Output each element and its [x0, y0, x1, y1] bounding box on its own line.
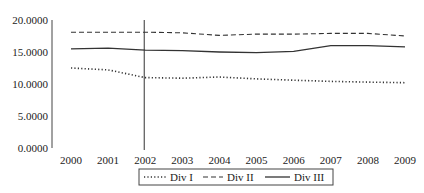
- x-tick-label: 2000: [60, 154, 83, 166]
- x-tick-label: 2004: [208, 154, 231, 166]
- y-tick-label: 20.0000: [12, 14, 48, 26]
- y-tick-label: 5.0000: [18, 110, 49, 122]
- x-tick-label: 2005: [246, 154, 269, 166]
- legend-label: Div II: [227, 171, 254, 183]
- x-tick-label: 2002: [134, 154, 156, 166]
- y-tick-label: 15.0000: [12, 46, 48, 58]
- legend-label: Div I: [170, 171, 193, 183]
- series-line-div-i: [71, 68, 405, 83]
- x-tick-label: 2009: [394, 154, 417, 166]
- legend-label: Div III: [294, 171, 325, 183]
- x-tick-label: 2003: [171, 154, 194, 166]
- series-line-div-ii: [71, 32, 405, 36]
- chart-canvas: 0.00005.000010.000015.000020.00002000200…: [0, 0, 424, 193]
- x-tick-label: 2001: [97, 154, 119, 166]
- y-tick-label: 0.0000: [18, 142, 49, 154]
- x-tick-label: 2006: [283, 154, 306, 166]
- x-tick-label: 2007: [320, 154, 343, 166]
- series-line-div-iii: [71, 46, 405, 53]
- y-tick-label: 10.0000: [12, 78, 48, 90]
- x-tick-label: 2008: [357, 154, 380, 166]
- line-chart: 0.00005.000010.000015.000020.00002000200…: [0, 0, 424, 193]
